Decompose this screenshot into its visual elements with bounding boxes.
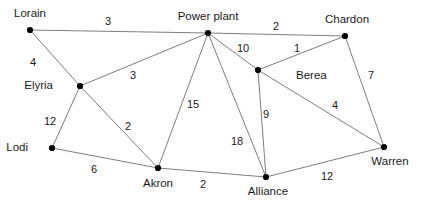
edges-group xyxy=(30,30,384,177)
graph-diagram: 342101732121518946212LorainPower plantCh… xyxy=(0,0,432,203)
node-dot-power-plant[interactable] xyxy=(205,30,211,36)
edge-berea-warren xyxy=(258,70,384,147)
edge-lorain-elyria xyxy=(30,30,80,86)
node-dot-lorain[interactable] xyxy=(27,27,33,33)
edge-akron-alliance xyxy=(158,168,266,177)
edge-power-plant-akron xyxy=(158,33,208,168)
nodes-group xyxy=(27,27,387,180)
edge-chardon-berea xyxy=(258,36,345,70)
node-dot-elyria[interactable] xyxy=(77,83,83,89)
edge-lorain-power-plant xyxy=(30,30,208,33)
node-dot-alliance[interactable] xyxy=(263,174,269,180)
node-dot-warren[interactable] xyxy=(381,144,387,150)
edge-chardon-warren xyxy=(345,36,384,147)
edge-alliance-warren xyxy=(266,147,384,177)
node-dot-chardon[interactable] xyxy=(342,33,348,39)
node-dot-berea[interactable] xyxy=(255,67,261,73)
node-dot-akron[interactable] xyxy=(155,165,161,171)
edge-power-plant-chardon xyxy=(208,33,345,36)
node-dot-lodi[interactable] xyxy=(49,145,55,151)
edge-elyria-power-plant xyxy=(80,33,208,86)
edge-elyria-lodi xyxy=(52,86,80,148)
graph-canvas xyxy=(0,0,432,203)
